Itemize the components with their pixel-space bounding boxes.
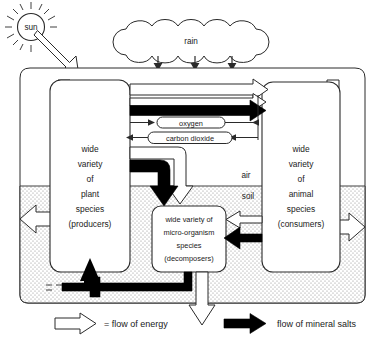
legend-label-energy: = flow of energy (104, 319, 168, 329)
svg-text:species: species (76, 204, 104, 214)
svg-text:species: species (176, 241, 201, 250)
cloud-icon: rain (113, 19, 269, 62)
svg-text:wide: wide (80, 144, 99, 154)
zone-label-air: air (241, 171, 250, 180)
svg-text:plant: plant (81, 189, 100, 199)
gas-label-carbon-dioxide: carbon dioxide (166, 134, 214, 143)
sun-label: sun (24, 23, 38, 32)
svg-text:species: species (287, 204, 315, 214)
svg-text:of: of (298, 174, 306, 184)
svg-text:(decomposers): (decomposers) (164, 254, 213, 263)
svg-text:(consumers): (consumers) (278, 219, 325, 229)
svg-text:of: of (87, 174, 95, 184)
svg-text:(producers): (producers) (69, 219, 112, 229)
svg-text:animal: animal (289, 189, 314, 199)
svg-text:variety: variety (289, 159, 314, 169)
svg-text:wide variety of: wide variety of (164, 215, 213, 224)
rain-label: rain (184, 37, 198, 46)
legend-label-mineral-salts: flow of mineral salts (277, 319, 357, 329)
svg-text:wide: wide (291, 144, 310, 154)
svg-text:variety: variety (78, 159, 103, 169)
gas-label-oxygen: oxygen (179, 119, 203, 128)
svg-text:micro-organism: micro-organism (164, 228, 215, 237)
ecosystem-diagram: sun rain air soil wide variety of plant … (0, 0, 385, 339)
zone-label-soil: soil (242, 192, 254, 201)
